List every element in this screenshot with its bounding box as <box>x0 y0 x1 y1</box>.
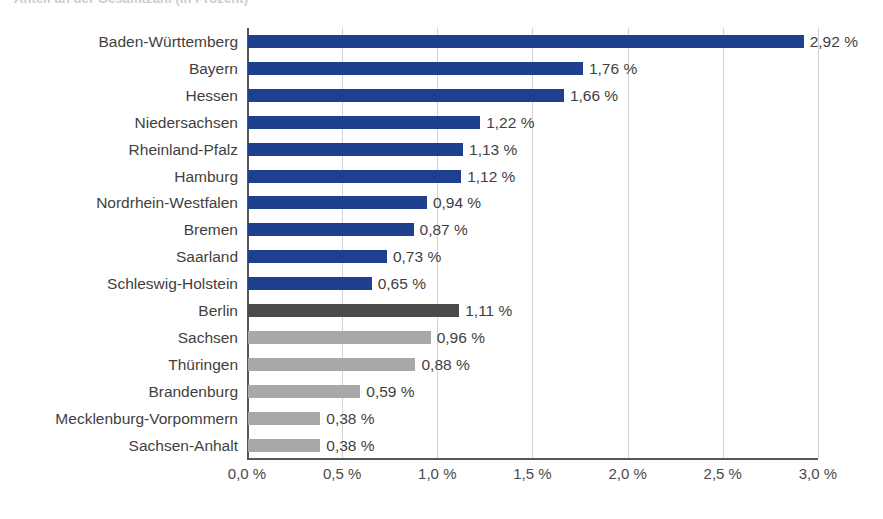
bar-value-label: 0,96 % <box>437 324 485 351</box>
bar-value-label: 1,11 % <box>465 297 512 324</box>
x-tick-label: 3,0 % <box>778 465 858 482</box>
category-label: Schleswig-Holstein <box>0 270 238 297</box>
bar-row: Sachsen-Anhalt0,38 % <box>0 432 883 459</box>
x-tick-label: 0,5 % <box>302 465 382 482</box>
x-tick-label: 1,0 % <box>397 465 477 482</box>
category-label: Hamburg <box>0 163 238 190</box>
bar-row: Hamburg1,12 % <box>0 163 883 190</box>
bar[interactable] <box>248 170 461 183</box>
chart-container: Anteil an der Gesamtzahl (in Prozent) Ba… <box>0 0 883 519</box>
bar[interactable] <box>248 116 480 129</box>
category-label: Sachsen <box>0 324 238 351</box>
bar[interactable] <box>248 250 387 263</box>
bar[interactable] <box>248 358 415 371</box>
bar-value-label: 0,65 % <box>378 270 426 297</box>
bar-row: Bremen0,87 % <box>0 216 883 243</box>
x-tick-label: 0,0 % <box>207 465 287 482</box>
category-label: Brandenburg <box>0 378 238 405</box>
bar-value-label: 0,94 % <box>433 189 481 216</box>
bar-value-label: 0,88 % <box>421 351 469 378</box>
x-tick-label: 2,0 % <box>588 465 668 482</box>
x-tick-label: 1,5 % <box>492 465 572 482</box>
bar-row: Baden-Württemberg2,92 % <box>0 28 883 55</box>
bar[interactable] <box>248 385 360 398</box>
bar-value-label: 0,59 % <box>366 378 414 405</box>
x-axis-tick-labels: 0,0 %0,5 %1,0 %1,5 %2,0 %2,5 %3,0 % <box>0 465 883 489</box>
bar-row: Hessen1,66 % <box>0 82 883 109</box>
x-tick-label: 2,5 % <box>683 465 763 482</box>
category-label: Berlin <box>0 297 238 324</box>
bar[interactable] <box>248 223 414 236</box>
bar-row: Nordrhein-Westfalen0,94 % <box>0 189 883 216</box>
category-label: Bayern <box>0 55 238 82</box>
category-label: Saarland <box>0 243 238 270</box>
bar-value-label: 1,12 % <box>467 163 515 190</box>
bar-value-label: 0,73 % <box>393 243 441 270</box>
bar-value-label: 0,87 % <box>420 216 468 243</box>
chart-title-strip: Anteil an der Gesamtzahl (in Prozent) <box>0 0 883 10</box>
bar-value-label: 1,76 % <box>589 55 637 82</box>
page-title: Anteil an der Gesamtzahl (in Prozent) <box>14 0 248 6</box>
bar-value-label: 0,38 % <box>326 405 374 432</box>
bar-value-label: 1,13 % <box>469 136 517 163</box>
category-label: Sachsen-Anhalt <box>0 432 238 459</box>
bar-row: Schleswig-Holstein0,65 % <box>0 270 883 297</box>
bar[interactable] <box>248 304 459 317</box>
bar-row: Brandenburg0,59 % <box>0 378 883 405</box>
category-label: Bremen <box>0 216 238 243</box>
bar-row: Bayern1,76 % <box>0 55 883 82</box>
bar-row: Berlin1,11 % <box>0 297 883 324</box>
bar[interactable] <box>248 35 804 48</box>
category-label: Thüringen <box>0 351 238 378</box>
category-label: Mecklenburg-Vorpommern <box>0 405 238 432</box>
bar-row: Saarland0,73 % <box>0 243 883 270</box>
bar-row: Mecklenburg-Vorpommern0,38 % <box>0 405 883 432</box>
bar-value-label: 1,22 % <box>486 109 534 136</box>
bar-row: Rheinland-Pfalz1,13 % <box>0 136 883 163</box>
bar[interactable] <box>248 143 463 156</box>
bar-value-label: 1,66 % <box>570 82 618 109</box>
bar[interactable] <box>248 277 372 290</box>
bar[interactable] <box>248 439 320 452</box>
bar[interactable] <box>248 62 583 75</box>
bar-row: Sachsen0,96 % <box>0 324 883 351</box>
bar-value-label: 2,92 % <box>810 28 858 55</box>
bar-row: Niedersachsen1,22 % <box>0 109 883 136</box>
bar-value-label: 0,38 % <box>326 432 374 459</box>
bar[interactable] <box>248 89 564 102</box>
bar[interactable] <box>248 412 320 425</box>
bar-rows: Baden-Württemberg2,92 %Bayern1,76 %Hesse… <box>0 28 883 458</box>
bar[interactable] <box>248 331 431 344</box>
category-label: Rheinland-Pfalz <box>0 136 238 163</box>
category-label: Nordrhein-Westfalen <box>0 189 238 216</box>
bar-row: Thüringen0,88 % <box>0 351 883 378</box>
category-label: Hessen <box>0 82 238 109</box>
category-label: Baden-Württemberg <box>0 28 238 55</box>
category-label: Niedersachsen <box>0 109 238 136</box>
bar[interactable] <box>248 196 427 209</box>
